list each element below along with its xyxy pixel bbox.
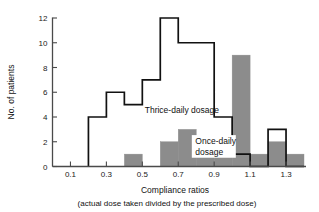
once-daily-bar [286,154,304,166]
x-tick-label: 1.3 [280,170,292,179]
x-tick-label: 0.3 [101,170,113,179]
y-tick-label: 8 [43,64,48,73]
once-daily-bar [124,154,142,166]
annotation-once-daily: Once-daily dosage [192,135,237,158]
y-tick-label: 2 [43,138,48,147]
x-axis-title: Compliance ratios [141,185,209,195]
x-tick-label: 1.1 [245,170,257,179]
compliance-ratio-histogram: 0.10.30.50.70.91.11.3 024681012 Thrice-d… [0,0,319,212]
x-tick-label: 0.9 [209,170,221,179]
y-tick-label: 4 [43,113,48,122]
y-axis-title: No. of patients [6,65,16,120]
once-daily-label-line1: Once-daily [195,136,236,146]
x-axis-subtitle: (actual dose taken divided by the prescr… [78,199,257,208]
thrice-daily-label: Thrice-daily dosage [145,105,219,115]
x-tick-label: 0.1 [65,170,77,179]
once-daily-label-line2: dosage [195,147,223,157]
y-tick-label: 0 [43,163,48,172]
chart-figure: 0.10.30.50.70.91.11.3 024681012 Thrice-d… [0,0,319,212]
y-tick-label: 12 [39,14,48,23]
y-tick-label: 6 [43,88,48,97]
once-daily-bar [160,142,178,167]
x-tick-label: 0.5 [137,170,149,179]
annotation-thrice-daily: Thrice-daily dosage [145,105,219,115]
once-daily-bar [268,142,286,167]
once-daily-bar [250,154,268,166]
x-tick-label: 0.7 [173,170,185,179]
y-tick-label: 10 [39,39,48,48]
